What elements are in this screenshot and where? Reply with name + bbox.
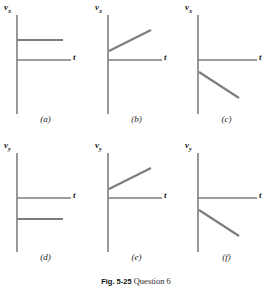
- data-line-b: [109, 30, 151, 51]
- panel-c-letter: (c): [181, 115, 272, 124]
- panel-a-letter: (a): [0, 115, 91, 124]
- panel-d-plot: [0, 140, 91, 258]
- data-line-f: [199, 210, 239, 236]
- panel-a-x-axis-label: t: [73, 53, 76, 62]
- data-line-c: [199, 72, 239, 98]
- data-line-e: [109, 168, 151, 189]
- figure-container: vx t (a) vx t (b) vx t (c) vy t (: [0, 0, 272, 286]
- panel-a: vx t (a): [0, 2, 91, 142]
- panel-c: vx t (c): [181, 2, 272, 142]
- panel-f: vy t (f): [181, 140, 272, 280]
- panel-b: vx t (b): [91, 2, 182, 142]
- panel-e: vy t (e): [91, 140, 182, 280]
- panel-f-letter: (f): [181, 253, 272, 262]
- panel-b-x-axis-label: t: [164, 53, 167, 62]
- figure-number: Fig. 5-25: [101, 277, 131, 286]
- panel-d-y-axis-label: vy: [4, 141, 11, 152]
- panel-f-x-axis-label: t: [259, 191, 262, 200]
- panel-e-letter: (e): [91, 253, 182, 262]
- panel-d: vy t (d): [0, 140, 91, 280]
- panel-e-y-axis-label: vy: [95, 141, 102, 152]
- panel-e-x-axis-label: t: [164, 191, 167, 200]
- panel-f-y-axis-label: vy: [185, 141, 192, 152]
- figure-caption-text: Question 6: [134, 276, 171, 286]
- panel-d-letter: (d): [0, 253, 91, 262]
- panel-b-letter: (b): [91, 115, 182, 124]
- panel-a-plot: [0, 2, 91, 120]
- figure-caption: Fig. 5-25 Question 6: [0, 277, 272, 286]
- panel-b-y-axis-label: vx: [95, 3, 102, 14]
- panel-c-y-axis-label: vx: [185, 3, 192, 14]
- panel-c-x-axis-label: t: [259, 53, 262, 62]
- panel-a-y-axis-label: vx: [4, 3, 11, 14]
- panel-e-plot: [91, 140, 182, 258]
- panel-d-x-axis-label: t: [73, 191, 76, 200]
- panel-b-plot: [91, 2, 182, 120]
